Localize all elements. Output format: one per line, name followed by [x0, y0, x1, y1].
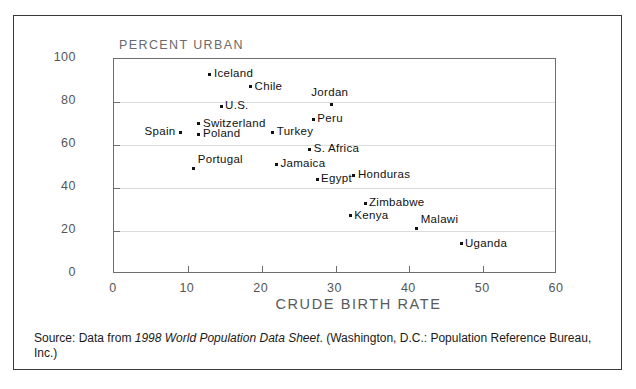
x-tick-mark [188, 266, 189, 272]
data-point-label: Iceland [214, 67, 253, 79]
y-tick-mark [114, 102, 120, 103]
data-point [197, 122, 200, 125]
x-tick-mark [409, 266, 410, 272]
data-point [179, 131, 182, 134]
data-point-label: Peru [317, 112, 343, 124]
data-point-label: Turkey [277, 125, 314, 137]
y-tick-mark [114, 145, 120, 146]
y-tick-label: 100 [36, 50, 76, 64]
data-point-label: Spain [145, 125, 176, 137]
data-point [364, 202, 367, 205]
source-prefix: Source: Data from [34, 331, 135, 345]
data-point [349, 214, 352, 217]
x-tick-label: 60 [536, 281, 576, 295]
data-point-label: Honduras [358, 168, 410, 180]
x-tick-label: 0 [93, 281, 133, 295]
data-point [415, 227, 418, 230]
data-point-label: Malawi [421, 213, 459, 225]
data-point-label: Egypt [321, 172, 352, 184]
y-tick-label: 80 [36, 93, 76, 107]
data-point [312, 118, 315, 121]
data-point [308, 148, 311, 151]
data-point-label: Portugal [198, 153, 243, 165]
data-point [460, 242, 463, 245]
x-tick-label: 50 [462, 281, 502, 295]
x-tick-mark [483, 266, 484, 272]
y-tick-label: 40 [36, 179, 76, 193]
scatter-chart: PERCENT URBAN IcelandChileJordanU.S.Peru… [14, 16, 623, 321]
data-point-label: Jordan [311, 86, 348, 98]
data-point-label: Jamaica [280, 157, 325, 169]
y-tick-label: 60 [36, 136, 76, 150]
data-point-label: Zimbabwe [369, 196, 424, 208]
data-point-label: U.S. [225, 99, 249, 111]
data-point-label: Chile [255, 80, 283, 92]
data-point-label: Poland [203, 127, 241, 139]
data-point-label: Kenya [354, 209, 388, 221]
data-point [271, 131, 274, 134]
data-point [220, 105, 223, 108]
x-tick-label: 10 [167, 281, 207, 295]
y-tick-label: 20 [36, 222, 76, 236]
figure-container: PERCENT URBAN IcelandChileJordanU.S.Peru… [13, 15, 622, 370]
x-tick-mark [336, 266, 337, 272]
data-point [249, 85, 252, 88]
data-point [197, 133, 200, 136]
x-tick-mark [262, 266, 263, 272]
data-point-label: Uganda [465, 237, 507, 249]
y-tick-mark [114, 188, 120, 189]
source-title: 1998 World Population Data Sheet [135, 331, 320, 345]
data-point [275, 163, 278, 166]
data-point [316, 178, 319, 181]
gridline-y [114, 231, 555, 232]
y-axis-title: PERCENT URBAN [119, 38, 244, 52]
plot-frame: IcelandChileJordanU.S.PeruSwitzerlandSpa… [113, 58, 556, 273]
data-point [352, 174, 355, 177]
gridline-y [114, 102, 555, 103]
data-point [330, 103, 333, 106]
x-tick-label: 20 [241, 281, 281, 295]
y-tick-mark [114, 231, 120, 232]
data-point [208, 73, 211, 76]
data-point [192, 167, 195, 170]
data-point-label: S. Africa [314, 142, 360, 154]
x-tick-label: 40 [388, 281, 428, 295]
gridline-y [114, 188, 555, 189]
y-tick-label: 0 [36, 265, 76, 279]
source-caption: Source: Data from 1998 World Population … [34, 331, 604, 361]
x-tick-label: 30 [315, 281, 355, 295]
x-axis-title: CRUDE BIRTH RATE [14, 296, 623, 312]
